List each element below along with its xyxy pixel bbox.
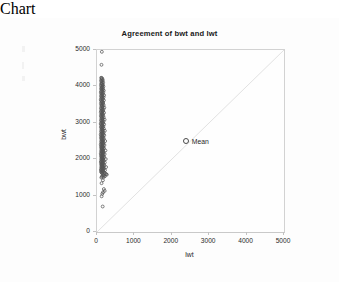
x-tick-label: 5000 xyxy=(263,237,303,244)
chart-screenshot: Agreement of bwt and lwt 010002000300040… xyxy=(0,18,339,282)
y-axis-title: bwt xyxy=(60,124,67,146)
data-point xyxy=(101,179,104,182)
data-point xyxy=(100,182,103,185)
y-tick-label: 4000 xyxy=(56,81,90,88)
data-point-group xyxy=(99,50,108,208)
x-tick-mark xyxy=(283,232,284,235)
y-tick-mark xyxy=(93,195,96,196)
y-tick-mark xyxy=(93,85,96,86)
x-tick-label: 4000 xyxy=(226,237,266,244)
x-tick-mark xyxy=(133,232,134,235)
mean-legend-label: Mean xyxy=(192,138,209,145)
y-tick-label: 0 xyxy=(56,227,90,234)
open-circle-icon xyxy=(183,138,189,144)
x-tick-mark xyxy=(171,232,172,235)
y-tick-mark xyxy=(93,49,96,50)
data-point xyxy=(101,205,104,208)
data-point xyxy=(100,50,103,53)
y-tick-label: 5000 xyxy=(56,45,90,52)
x-tick-label: 0 xyxy=(76,237,116,244)
x-tick-mark xyxy=(96,232,97,235)
data-point xyxy=(100,63,103,66)
x-tick-label: 3000 xyxy=(188,237,228,244)
mean-legend-annotation: Mean xyxy=(183,138,209,145)
y-tick-label: 1000 xyxy=(56,191,90,198)
y-tick-mark xyxy=(93,158,96,159)
y-tick-label: 2000 xyxy=(56,154,90,161)
chart-title: Agreement of bwt and lwt xyxy=(0,29,339,38)
x-tick-mark xyxy=(246,232,247,235)
x-tick-label: 1000 xyxy=(113,237,153,244)
x-axis-title: lwt xyxy=(96,251,283,258)
y-tick-mark xyxy=(93,122,96,123)
x-tick-mark xyxy=(208,232,209,235)
scatter-chart: Agreement of bwt and lwt 010002000300040… xyxy=(0,18,339,282)
x-tick-label: 2000 xyxy=(151,237,191,244)
